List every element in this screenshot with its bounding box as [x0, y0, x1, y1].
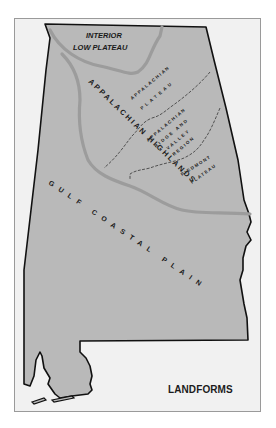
- dauphin-island: [32, 398, 46, 404]
- label-low-plateau: LOW PLATEAU: [73, 43, 128, 52]
- alabama-landforms-map: INTERIOR LOW PLATEAU APPALACHIAN HIGHLAN…: [0, 0, 276, 428]
- map-title: LANDFORMS: [168, 384, 233, 395]
- label-interior: INTERIOR: [86, 31, 122, 40]
- state-outline: [24, 24, 251, 398]
